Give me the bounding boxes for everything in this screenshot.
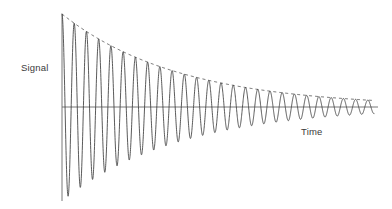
damped-oscillation-figure: Signal Time <box>0 0 392 209</box>
plot-canvas <box>0 0 392 209</box>
plot-background <box>0 0 392 209</box>
y-axis-label: Signal <box>21 62 49 73</box>
x-axis-label: Time <box>301 126 323 137</box>
